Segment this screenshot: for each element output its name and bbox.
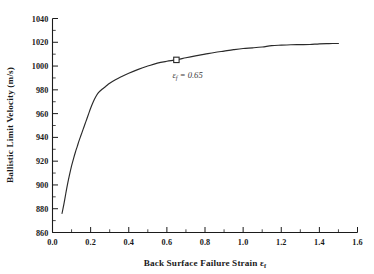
y-tick-label: 1040	[32, 15, 49, 24]
y-tick-label: 980	[36, 86, 49, 95]
x-tick-label: 1.6	[352, 238, 363, 247]
x-tick-label: 0.4	[123, 238, 134, 247]
x-tick-label: 0.2	[85, 238, 96, 247]
y-axis-title: Ballistic Limit Velocity (m/s)	[5, 67, 15, 183]
x-tick-label: 0.6	[162, 238, 173, 247]
y-tick-label: 860	[36, 229, 49, 238]
x-tick-label: 1.2	[276, 238, 287, 247]
x-tick-label: 1.0	[238, 238, 249, 247]
y-tick-label: 1000	[32, 62, 49, 71]
x-tick-label: 1.4	[314, 238, 325, 247]
y-tick-label: 940	[36, 133, 49, 142]
y-tick-label: 1020	[32, 38, 49, 47]
x-tick-label: 0.0	[47, 238, 58, 247]
x-axis-title-main: Back Surface Failure Strain ε	[144, 258, 264, 268]
chart-figure: 0.00.20.40.60.81.01.21.41.68608809009209…	[0, 0, 374, 274]
chart-plot-area: 0.00.20.40.60.81.01.21.41.68608809009209…	[0, 0, 374, 274]
annotation-value: = 0.65	[178, 70, 204, 80]
x-tick-label: 0.8	[200, 238, 211, 247]
failure-strain-annotation-label: εf = 0.65	[172, 70, 203, 81]
x-axis-title: Back Surface Failure Strain εf	[144, 258, 267, 269]
y-tick-label: 920	[36, 157, 49, 166]
y-tick-label: 960	[36, 110, 49, 119]
failure-strain-marker	[174, 57, 179, 62]
y-tick-label: 900	[36, 181, 49, 190]
y-tick-label: 880	[36, 205, 49, 214]
